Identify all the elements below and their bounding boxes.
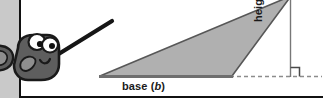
height-label: height (h) <box>252 0 264 22</box>
height-label-text: height ( <box>252 0 264 22</box>
figure-scene: base (b) height (h) <box>0 0 323 106</box>
base-label-text: base ( <box>122 80 154 92</box>
base-label: base (b) <box>122 80 165 92</box>
mascot-right-pupil-icon <box>49 43 55 49</box>
pointer-stick-icon <box>57 21 112 55</box>
base-label-paren: ) <box>161 80 165 92</box>
mascot-left-pupil-icon <box>37 41 43 47</box>
